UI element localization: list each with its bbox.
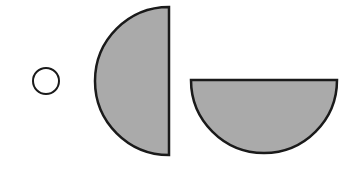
diagram-canvas (0, 0, 355, 176)
